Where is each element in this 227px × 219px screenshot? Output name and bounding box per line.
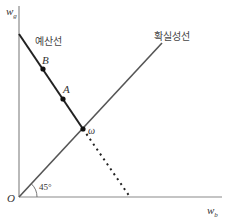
angle-label: 45° xyxy=(39,182,52,192)
budget-line xyxy=(19,34,83,129)
diagram-svg: wg 예산선 확실성선 B A ω 45° O wb xyxy=(0,0,227,219)
y-axis-label: wg xyxy=(6,5,17,20)
diagram-canvas: wg 예산선 확실성선 B A ω 45° O wb xyxy=(0,0,227,219)
point-a xyxy=(60,96,65,101)
point-omega xyxy=(80,126,85,131)
point-b-label: B xyxy=(42,54,49,66)
point-a-label: A xyxy=(62,83,70,95)
budget-line-extension xyxy=(83,129,130,197)
angle-arc xyxy=(32,184,38,197)
point-omega-label: ω xyxy=(88,125,95,136)
origin-label: O xyxy=(7,192,15,204)
budget-line-label: 예산선 xyxy=(35,36,62,47)
point-b xyxy=(40,66,45,71)
x-axis-label: wb xyxy=(207,204,218,219)
certainty-line-label: 확실성선 xyxy=(154,31,190,42)
